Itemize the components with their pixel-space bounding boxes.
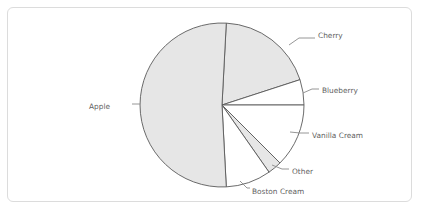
leader-line-blueberry <box>303 89 319 93</box>
slice-label-blueberry: Blueberry <box>322 86 359 95</box>
pie-slices-group <box>140 23 304 187</box>
pie-chart-svg: CherryBlueberryVanilla CreamOtherBoston … <box>0 0 421 211</box>
slice-label-apple: Apple <box>89 102 110 111</box>
pie-slice-apple[interactable] <box>140 23 226 187</box>
slice-label-vanilla-cream: Vanilla Cream <box>312 131 363 140</box>
slice-label-boston-cream: Boston Cream <box>252 187 304 196</box>
slice-label-cherry: Cherry <box>318 31 343 40</box>
slice-label-other: Other <box>292 167 314 176</box>
leader-line-cherry <box>289 38 315 45</box>
pie-chart-panel: CherryBlueberryVanilla CreamOtherBoston … <box>0 0 421 211</box>
